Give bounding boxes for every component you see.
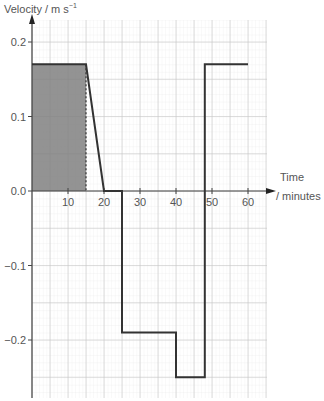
x-axis-arrow-icon	[266, 188, 276, 194]
y-tick-label: −0.2	[4, 334, 26, 346]
x-tick-label: 40	[170, 196, 182, 208]
y-tick-label: 0.0	[11, 185, 26, 197]
x-tick-label: 50	[206, 196, 218, 208]
y-axis-arrow-icon	[29, 14, 35, 24]
y-axis-title: Velocity / m s−1	[4, 2, 77, 15]
shaded-area	[32, 64, 86, 191]
x-tick-label: 60	[242, 196, 254, 208]
x-tick-label: 20	[98, 196, 110, 208]
x-tick-label: 30	[134, 196, 146, 208]
x-tick-label: 10	[62, 196, 74, 208]
x-axis-title-line2: / minutes	[276, 190, 321, 202]
x-axis-title-line1: Time	[280, 171, 304, 183]
y-tick-label: −0.1	[4, 260, 26, 272]
velocity-time-graph: 1020304050600.20.10.0−0.1−0.2 Velocity /…	[0, 0, 324, 401]
y-tick-label: 0.2	[11, 36, 26, 48]
y-tick-label: 0.1	[11, 111, 26, 123]
